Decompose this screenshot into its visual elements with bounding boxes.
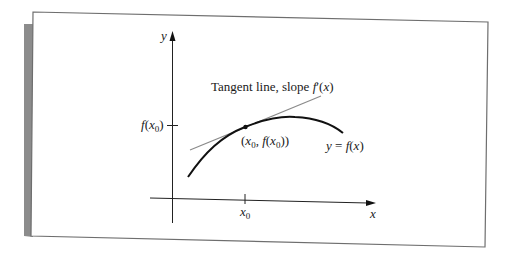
tangency-point [243,125,247,129]
point-label: (x0, f(x0)) [241,133,289,150]
curve-label: y = f(x) [324,138,364,153]
tangent-diagram: y x x0 f(x0) Tangent line, slope f′(x) (… [0,0,514,258]
figure-frame [31,12,488,247]
x-axis-label: x [369,206,376,221]
tangent-label: Tangent line, slope f′(x) [211,79,334,94]
y-axis-label: y [159,28,167,43]
fx0-tick-label: f(x0) [141,117,164,134]
